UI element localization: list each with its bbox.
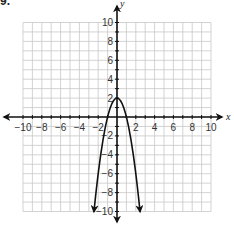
- y-tick-label: −4: [102, 149, 114, 160]
- y-tick-label: −8: [102, 187, 114, 198]
- y-tick-label: −6: [102, 168, 114, 179]
- axes: xy: [4, 0, 231, 222]
- x-tick-label: −8: [36, 122, 48, 133]
- x-tick-label: −6: [55, 122, 67, 133]
- y-axis-label: y: [119, 0, 125, 9]
- y-tick-label: 4: [107, 74, 113, 85]
- x-tick-label: 2: [133, 122, 139, 133]
- y-tick-label: −10: [96, 206, 113, 217]
- y-tick-label: 10: [102, 17, 114, 28]
- y-tick-label: 8: [107, 36, 113, 47]
- x-tick-label: −4: [74, 122, 86, 133]
- x-tick-label: 6: [171, 122, 177, 133]
- x-tick-label: 4: [152, 122, 158, 133]
- x-axis-label: x: [225, 111, 231, 122]
- y-tick-label: 6: [107, 55, 113, 66]
- x-tick-label: 8: [189, 122, 195, 133]
- coordinate-plane: xy −10−8−6−4−2246810108642−2−4−6−8−10: [0, 0, 234, 225]
- x-tick-label: −10: [15, 122, 32, 133]
- x-tick-label: 10: [205, 122, 217, 133]
